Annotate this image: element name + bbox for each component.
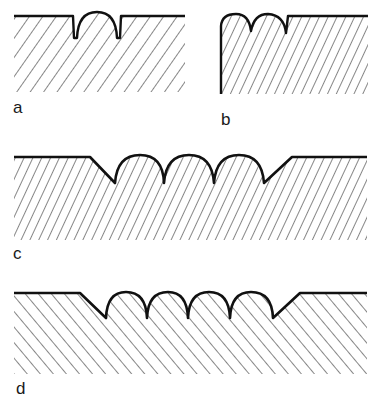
panel-a-hatch [14,12,185,92]
panel-b-hatch [221,14,368,94]
diagram-canvas [0,0,381,403]
panel-a-label: a [13,99,22,116]
panel-c-label: c [13,245,22,262]
panel-b [221,14,368,94]
panel-d-label: d [16,380,25,397]
panel-c-hatch [14,155,367,240]
panel-b-label: b [221,111,230,128]
panel-c [14,155,367,240]
panel-d [14,292,367,374]
panel-a [14,12,185,92]
